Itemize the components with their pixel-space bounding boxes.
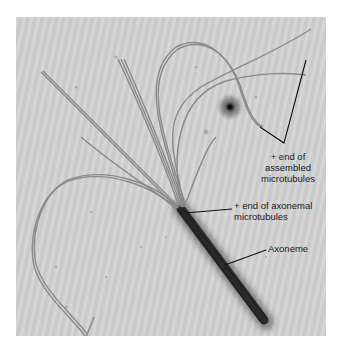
label-axoneme: Axoneme	[268, 243, 308, 254]
label-axonemal-plus-end: + end of axonemal microtubules	[234, 200, 312, 222]
label-assembled-line2: assembled	[242, 162, 334, 173]
label-axonemal-line2: microtubules	[234, 211, 312, 222]
label-assembled-line1: + end of	[242, 151, 334, 162]
label-assembled-line3: microtubules	[242, 173, 334, 184]
label-assembled-plus-end: + end of assembled microtubules	[242, 151, 334, 184]
micrograph-figure: + end of assembled microtubules + end of…	[0, 0, 341, 347]
label-axonemal-line1: + end of axonemal	[234, 200, 312, 211]
